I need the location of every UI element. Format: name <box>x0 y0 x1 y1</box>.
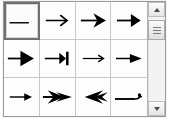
scroll-down-button[interactable] <box>148 101 165 116</box>
swatch-arrow-curved-hook[interactable] <box>111 78 147 116</box>
thumb-grip-icon <box>153 27 161 34</box>
arrow-filled-wide-icon <box>4 40 39 77</box>
swatch-arrow-filled-solid[interactable] <box>111 2 147 40</box>
arrow-open-thin-icon <box>40 2 75 39</box>
arrow-tapered-icon <box>111 40 147 77</box>
scrollbar-track[interactable] <box>148 17 165 101</box>
swatch-arrow-filled-wide[interactable] <box>4 40 40 78</box>
swatch-arrow-with-bar[interactable] <box>40 40 76 78</box>
arrow-filled-concave-icon <box>76 2 111 39</box>
swatch-arrow-small-open[interactable] <box>76 40 112 78</box>
arrow-small-filled-icon <box>4 78 39 116</box>
swatch-arrow-tapered[interactable] <box>111 40 147 78</box>
arrow-curved-hook-icon <box>111 78 147 116</box>
swatch-arrow-reversed-wing[interactable] <box>76 78 112 116</box>
swatch-arrow-filled-concave[interactable] <box>76 2 112 40</box>
swatch-line-no-arrow[interactable] <box>4 2 40 40</box>
grid-scrollbar[interactable] <box>147 2 165 116</box>
swatch-arrow-small-filled[interactable] <box>4 78 40 116</box>
scrollbar-thumb[interactable] <box>148 20 165 40</box>
arrow-style-grid[interactable] <box>4 2 147 116</box>
arrow-filled-solid-icon <box>111 2 147 39</box>
arrow-small-open-icon <box>76 40 111 77</box>
arrow-style-picker[interactable] <box>3 1 166 117</box>
arrow-reversed-wing-icon <box>76 78 111 116</box>
line-no-arrow-icon <box>6 4 38 38</box>
swatch-arrow-double-wing[interactable] <box>40 78 76 116</box>
scroll-up-button[interactable] <box>148 2 165 17</box>
swatch-arrow-open-thin[interactable] <box>40 2 76 40</box>
scroll-down-arrow-icon <box>154 107 160 111</box>
scroll-up-arrow-icon <box>154 8 160 12</box>
arrow-double-wing-icon <box>40 78 75 116</box>
arrow-with-bar-icon <box>40 40 75 77</box>
